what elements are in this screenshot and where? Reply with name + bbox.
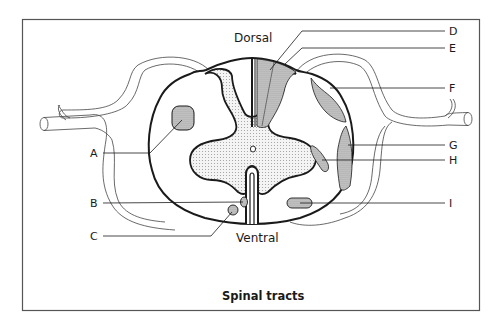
central-canal (250, 146, 255, 152)
spinal-tracts-diagram: A B C D E F G H I Dorsal Ventral Spinal … (0, 0, 503, 329)
label-f: F (449, 82, 455, 95)
label-d: D (449, 25, 457, 38)
label-a: A (90, 147, 98, 160)
label-i: I (449, 197, 452, 210)
ventral-median-fissure (246, 167, 258, 225)
label-g: G (449, 139, 458, 152)
label-b: B (90, 197, 98, 210)
label-c: C (90, 230, 98, 243)
label-h: H (449, 154, 457, 167)
tract-c (228, 205, 238, 215)
label-e: E (449, 42, 456, 55)
orientation-ventral: Ventral (236, 231, 279, 245)
figure-caption: Spinal tracts (222, 289, 305, 303)
orientation-dorsal: Dorsal (234, 31, 272, 45)
